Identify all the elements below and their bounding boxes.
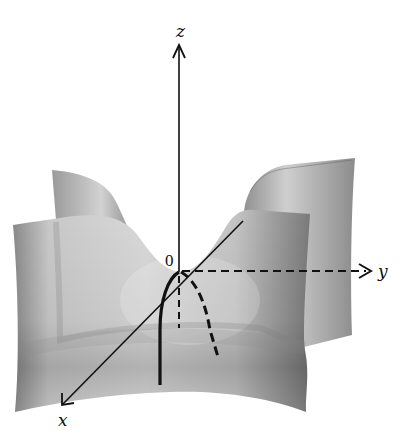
surface-diagram: z y x 0 <box>0 0 401 431</box>
z-axis-label: z <box>175 21 186 41</box>
y-axis-label: y <box>377 261 388 281</box>
origin-label: 0 <box>165 251 174 270</box>
x-axis-label: x <box>58 410 68 430</box>
